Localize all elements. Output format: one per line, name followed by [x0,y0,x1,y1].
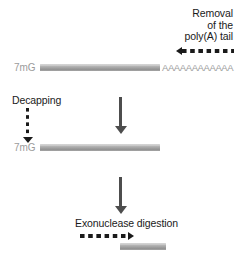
decapping-dashed-arrow-down-icon [22,108,34,144]
removal-annotation: Removal of the poly(A) tail [93,8,233,43]
mrna-bar-full [40,64,160,71]
process-arrow-1-icon [114,97,128,135]
removal-line-1: Removal [93,8,233,20]
arrow-dashes [80,234,128,237]
arrow-shaft [119,97,122,127]
arrowhead-right-icon [128,232,134,240]
arrow-shaft [119,177,122,207]
decapping-label: Decapping [12,95,61,107]
cap-label-top: 7mG [14,62,35,73]
mrna-bar-fragment [120,243,166,250]
cap-label-middle: 7mG [14,142,35,153]
arrow-dashes [182,49,234,52]
mrna-degradation-diagram: Removal of the poly(A) tail 7mG AAAAAAAA… [0,0,239,272]
arrowhead-down-icon [115,206,127,214]
exonuclease-label: Exonuclease digestion [75,218,178,230]
polya-tail-label: AAAAAAAAAAAA [162,62,233,73]
arrow-dashes [26,108,29,136]
removal-dashed-arrow-left-icon [176,46,234,56]
removal-line-3: poly(A) tail [93,31,233,43]
exonuclease-dashed-arrow-right-icon [80,231,134,241]
arrowhead-down-icon [115,126,127,134]
mrna-bar-deadenylated [40,144,160,151]
process-arrow-2-icon [114,177,128,215]
